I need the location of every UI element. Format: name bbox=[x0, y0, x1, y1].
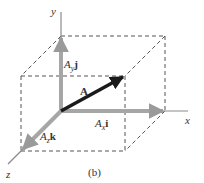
diagram-svg: y x z A Ayj Axi Azk (b) bbox=[0, 0, 204, 183]
y-component-label: Ayj bbox=[63, 58, 78, 73]
figure-caption: (b) bbox=[88, 166, 101, 179]
resultant-vector-arrow bbox=[61, 77, 123, 111]
axes bbox=[8, 12, 188, 164]
vector-components-diagram: y x z A Ayj Axi Azk (b) bbox=[0, 0, 204, 183]
y-axis-label: y bbox=[50, 5, 56, 17]
resultant-label: A bbox=[80, 85, 88, 97]
x-component-label: Axi bbox=[94, 117, 108, 132]
z-axis-label: z bbox=[5, 168, 11, 180]
x-axis-label: x bbox=[184, 114, 190, 126]
z-component-label: Azk bbox=[39, 130, 57, 145]
